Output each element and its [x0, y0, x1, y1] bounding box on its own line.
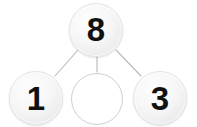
connector-whole-to-right [116, 50, 141, 76]
connector-whole-to-left [55, 50, 78, 76]
part-node-middle-blank[interactable] [71, 73, 123, 125]
number-bond-diagram: 8 1 3 [0, 0, 197, 127]
part-node-left-value: 1 [27, 82, 45, 115]
part-node-left[interactable]: 1 [9, 71, 63, 125]
part-node-right[interactable]: 3 [133, 71, 187, 125]
whole-node-value: 8 [87, 13, 105, 46]
whole-node[interactable]: 8 [69, 3, 123, 57]
part-node-right-value: 3 [151, 82, 169, 115]
